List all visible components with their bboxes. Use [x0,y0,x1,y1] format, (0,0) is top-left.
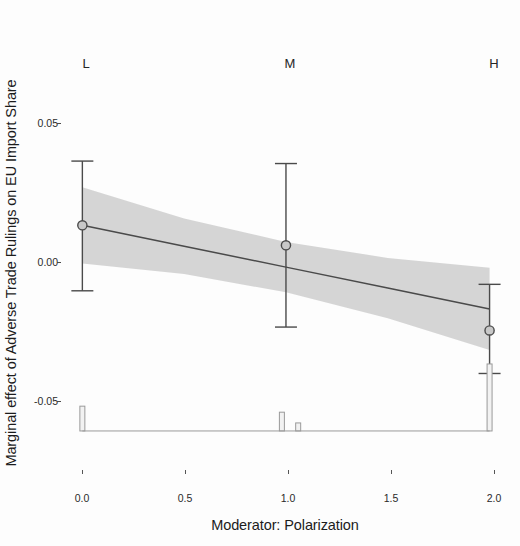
y-tick-label-0: 0.05 [12,117,58,129]
x-tick-mark-0 [82,470,83,474]
point-estimate-marker [78,221,87,230]
x-tick-label-2: 1.0 [268,492,308,504]
rug-histogram-bar [80,406,85,431]
x-tick-label-3: 1.5 [371,492,411,504]
x-tick-mark-1 [185,470,186,474]
rug-histogram-bar [279,412,284,431]
rug-histogram-bar [487,364,492,431]
point-estimate-marker [485,326,494,335]
group-label-high: H [474,56,514,71]
group-label-low: L [66,56,106,71]
x-tick-label-1: 0.5 [165,492,205,504]
x-tick-mark-4 [494,470,495,474]
marginal-effects-figure: Marginal effect of Adverse Trade Rulings… [0,0,520,546]
x-tick-mark-3 [391,470,392,474]
rug-histogram-group [80,364,492,431]
y-tick-mark-1 [57,262,61,263]
y-tick-label-2: -0.05 [12,395,58,407]
x-axis-title: Moderator: Polarization [60,517,510,533]
y-tick-mark-0 [57,123,61,124]
group-label-mid: M [270,56,310,71]
x-tick-label-4: 2.0 [474,492,514,504]
y-tick-mark-2 [57,401,61,402]
x-tick-label-0: 0.0 [62,492,102,504]
rug-histogram-bar [296,423,301,431]
plot-panel [62,12,514,470]
y-tick-label-1: 0.00 [12,256,58,268]
x-tick-mark-2 [288,470,289,474]
point-estimate-marker [281,241,290,250]
y-axis-title: Marginal effect of Adverse Trade Rulings… [0,0,22,546]
plot-canvas [62,12,514,470]
